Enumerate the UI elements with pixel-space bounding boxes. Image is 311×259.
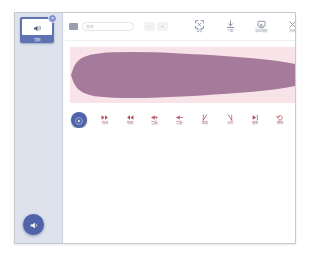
tool-volume-down-label: 音量− <box>176 122 184 125</box>
speaker-add-icon <box>29 216 39 234</box>
fast-forward-icon <box>101 113 109 121</box>
search-input[interactable]: 搜索 <box>82 22 134 31</box>
tool-cut-left-label: 裁剪 <box>202 122 208 125</box>
tool-rewind[interactable]: 快退 <box>121 113 138 125</box>
fit-screen-label: 全屏 <box>196 30 202 33</box>
download-icon <box>226 19 235 29</box>
export-icon <box>257 19 266 29</box>
play-icon <box>75 111 83 129</box>
export-button[interactable]: 导出视频 <box>250 19 272 33</box>
zoom-in-button[interactable]: + <box>157 22 168 31</box>
cut-right-icon <box>226 113 234 121</box>
tool-volume-up[interactable]: 音量+ <box>146 113 163 125</box>
tool-row: 快进 快退 <box>96 112 296 125</box>
tool-cut-right[interactable]: 分割 <box>221 113 238 125</box>
tool-cut-left[interactable]: 裁剪 <box>196 113 213 125</box>
waveform-shape <box>70 47 296 103</box>
thumbnail-preview <box>22 19 52 35</box>
volume-down-icon <box>176 113 184 121</box>
fit-screen-button[interactable]: 全屏 <box>188 19 210 33</box>
tool-play-head[interactable]: 播放 <box>246 113 263 125</box>
zoom-out-button[interactable]: − <box>144 22 155 31</box>
download-label: 下载 <box>227 30 233 33</box>
cut-left-icon <box>201 113 209 121</box>
audio-waveform-track[interactable] <box>70 47 296 103</box>
tool-volume-down[interactable]: 音量− <box>171 113 188 125</box>
close-icon <box>288 19 297 29</box>
tool-forward-label: 快进 <box>102 122 108 125</box>
export-label: 导出视频 <box>255 30 267 33</box>
tool-undo-label: 撤销 <box>277 122 283 125</box>
undo-icon <box>276 113 284 121</box>
rewind-icon <box>126 113 134 121</box>
thumbnail-caption: 音频 <box>22 36 52 43</box>
speaker-icon <box>33 18 42 36</box>
tool-play-head-label: 播放 <box>252 122 258 125</box>
search-placeholder: 搜索 <box>86 24 94 29</box>
add-audio-button[interactable] <box>23 214 44 235</box>
toolbar: 搜索 − + 全屏 <box>63 13 296 41</box>
tool-undo[interactable]: 撤销 <box>271 113 288 125</box>
list-icon <box>69 23 78 30</box>
download-button[interactable]: 下载 <box>219 19 241 33</box>
tool-cut-right-label: 分割 <box>227 122 233 125</box>
tool-volume-up-label: 音量+ <box>151 122 159 125</box>
clip-sidebar: 音频 × <box>15 13 63 243</box>
tool-rewind-label: 快退 <box>127 122 133 125</box>
close-label: 关闭 <box>289 30 295 33</box>
empty-canvas-area <box>63 128 296 243</box>
tool-forward[interactable]: 快进 <box>96 113 113 125</box>
control-bar: 快进 快退 <box>63 103 296 128</box>
play-head-icon <box>251 113 259 121</box>
toolbar-actions: 全屏 下载 <box>188 19 296 33</box>
close-button[interactable]: 关闭 <box>281 19 296 33</box>
track-container <box>63 41 296 103</box>
audio-clip-thumbnail[interactable]: 音频 × <box>20 17 54 43</box>
fit-screen-icon <box>195 19 204 29</box>
app-window: 音频 × 搜索 − + <box>14 12 296 244</box>
zoom-stepper: − + <box>144 22 168 31</box>
close-icon[interactable]: × <box>48 14 57 23</box>
main-panel: 搜索 − + 全屏 <box>63 13 296 243</box>
volume-up-icon <box>151 113 159 121</box>
play-button[interactable] <box>71 112 87 128</box>
